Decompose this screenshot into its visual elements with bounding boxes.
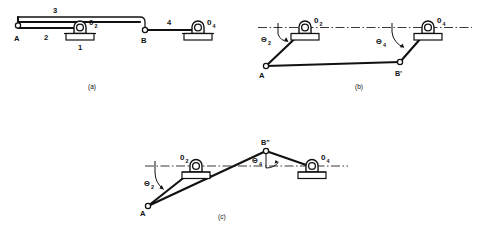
figure-root: A B 0 2 0 4 3 2 1 4 (a) (0, 0, 480, 235)
pivot-pin (302, 24, 309, 31)
label-angle-theta-2: Θ 2 (261, 35, 271, 46)
ground-block (66, 34, 94, 41)
pivot-pin (193, 163, 200, 170)
ground-block (298, 172, 326, 179)
label-theta-2-main: Θ (261, 35, 267, 44)
label-point-a: A (259, 71, 265, 80)
label-theta-2-main: Θ (144, 179, 150, 188)
pivot-pin (195, 24, 202, 31)
panel-b: A B' 0 2 0 4 Θ 2 Θ 4 (b) (258, 16, 472, 91)
label-pivot-o4-subscript: 4 (327, 158, 330, 164)
label-point-b-double-prime: B" (261, 138, 270, 147)
pivot-pin (309, 163, 316, 170)
label-pivot-o2-main: 0 (180, 153, 185, 162)
caption-panel-c: (c) (218, 213, 226, 221)
joint-a (15, 23, 20, 28)
joint-b-prime (397, 59, 402, 64)
label-pivot-o4-subscript: 4 (213, 23, 216, 29)
panel-a: A B 0 2 0 4 3 2 1 4 (a) (14, 6, 216, 91)
label-link-2: 2 (44, 33, 48, 42)
joint-b (142, 27, 147, 32)
caption-panel-b: (b) (355, 83, 363, 91)
ground-block (184, 34, 212, 41)
joint-a (145, 203, 150, 208)
label-angle-theta-2: Θ 2 (144, 179, 154, 190)
joint-a (263, 63, 268, 68)
link-3-coupler (266, 62, 400, 66)
label-angle-theta-4: Θ 4 (376, 37, 386, 48)
pivot-o4-panel-c (298, 160, 326, 179)
label-pivot-o4: 0 4 (437, 16, 446, 27)
label-link-1: 1 (78, 43, 83, 52)
label-pivot-o4-subscript: 4 (443, 21, 446, 27)
label-theta-4-main: Θ (376, 37, 382, 46)
label-pivot-o2-main: 0 (314, 16, 319, 25)
label-pivot-o2: 0 2 (180, 153, 189, 164)
pivot-pin (425, 24, 432, 31)
label-theta-2-subscript: 2 (151, 184, 154, 190)
joint-b-double-prime (263, 148, 268, 153)
label-pivot-o2-subscript: 2 (320, 21, 323, 27)
label-pivot-o2-subscript: 2 (95, 23, 98, 29)
label-theta-4-subscript: 4 (383, 42, 386, 48)
pivot-pin (77, 24, 84, 31)
ground-block (182, 172, 210, 179)
panel-c: A B" 0 2 0 4 Θ 2 Θ 4 (c) (140, 138, 348, 221)
label-pivot-o4-main: 0 (207, 18, 212, 27)
linkage-figure-canvas: A B 0 2 0 4 3 2 1 4 (a) (0, 0, 480, 235)
label-pivot-o2: 0 2 (89, 18, 98, 29)
label-link-3: 3 (53, 6, 57, 15)
label-pivot-o2-main: 0 (89, 18, 94, 27)
label-pivot-o2: 0 2 (314, 16, 323, 27)
label-link-4: 4 (167, 18, 172, 27)
label-point-b: B (141, 36, 147, 45)
label-pivot-o2-subscript: 2 (186, 158, 189, 164)
label-theta-4-main: Θ (252, 156, 258, 165)
label-pivot-o4-main: 0 (437, 16, 442, 25)
label-point-b-prime: B' (395, 69, 402, 78)
link-4-rocker (266, 151, 312, 167)
ground-block (291, 34, 319, 41)
caption-panel-a: (a) (88, 83, 96, 91)
angle-arc-theta-4 (266, 162, 279, 168)
label-theta-4-subscript: 4 (259, 161, 262, 167)
label-point-a: A (140, 209, 146, 218)
label-angle-theta-4: Θ 4 (252, 156, 262, 167)
label-point-a: A (14, 34, 20, 43)
ground-block (414, 34, 442, 41)
label-pivot-o4-main: 0 (321, 153, 326, 162)
label-theta-2-subscript: 2 (268, 40, 271, 46)
label-pivot-o4: 0 4 (321, 153, 330, 164)
label-pivot-o4: 0 4 (207, 18, 216, 29)
